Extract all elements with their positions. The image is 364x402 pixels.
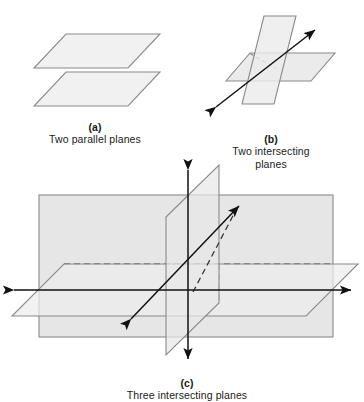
caption-b-label: (b) (264, 133, 278, 145)
caption-b-text-line1: Two intersecting (232, 145, 309, 157)
caption-a-label: (a) (88, 121, 101, 133)
caption-panel-c: (c) Three intersecting planes (62, 364, 312, 402)
caption-b-text-line2: planes (255, 158, 287, 170)
caption-panel-b: (b) Two intersecting planes (196, 120, 346, 170)
caption-c-text: Three intersecting planes (127, 389, 247, 401)
caption-a-text: Two parallel planes (49, 133, 141, 145)
caption-panel-a: (a) Two parallel planes (10, 108, 180, 146)
caption-c-label: (c) (180, 377, 193, 389)
